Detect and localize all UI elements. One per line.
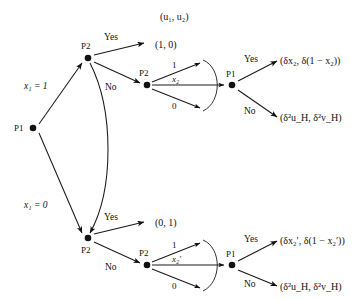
label-node-upper-p2-second: P2 bbox=[139, 68, 149, 78]
edge-root-to-lower-p2 bbox=[39, 133, 82, 233]
payoff-lower-p1-yes: (δx₂′, δ(1 − x₂′)) bbox=[280, 235, 345, 247]
edge-root-to-upper-p2 bbox=[39, 63, 82, 124]
header-payoff-key: (u₁, u₂) bbox=[160, 11, 189, 23]
game-tree-canvas: P1 P2 P2 P2 P2 P1 P1 (u₁, u₂) x₁ = 1 x₁ … bbox=[0, 0, 354, 300]
label-node-lower-p1: P1 bbox=[226, 249, 236, 259]
label-edge-lower-p1-yes: Yes bbox=[244, 234, 258, 244]
payoff-upper-p1-no: (δ²u_H, δ²v_H) bbox=[280, 112, 342, 124]
payoff-lower-p1-no: (δ²u_H, δ²v_H) bbox=[280, 281, 342, 293]
label-edge-x1-equals-1: x₁ = 1 bbox=[23, 81, 47, 91]
label-edge-lower-yes: Yes bbox=[104, 212, 118, 222]
label-lower-fan-top: 1 bbox=[172, 240, 177, 250]
label-lower-fan-mid: x₂′ bbox=[171, 254, 182, 264]
label-edge-x1-equals-0: x₁ = 0 bbox=[23, 200, 48, 210]
label-edge-lower-p1-no: No bbox=[244, 279, 256, 289]
label-node-lower-p2-second: P2 bbox=[139, 248, 149, 258]
node-lower-p2-second[interactable] bbox=[144, 262, 151, 269]
label-node-upper-p2: P2 bbox=[81, 41, 91, 51]
node-lower-p1[interactable] bbox=[229, 262, 236, 269]
node-upper-p2[interactable] bbox=[85, 55, 92, 62]
edge-upper-p2-no bbox=[94, 62, 140, 83]
game-tree-figure: P1 P2 P2 P2 P2 P1 P1 (u₁, u₂) x₁ = 1 x₁ … bbox=[0, 0, 354, 300]
label-edge-upper-p1-no: No bbox=[244, 106, 256, 116]
node-upper-p2-second[interactable] bbox=[144, 82, 151, 89]
edge-upper-p1-yes bbox=[238, 61, 277, 81]
payoff-upper-p1-yes: (δx₂, δ(1 − x₂)) bbox=[280, 55, 340, 67]
label-edge-upper-p1-yes: Yes bbox=[244, 54, 258, 64]
payoff-lower-yes: (0, 1) bbox=[155, 217, 177, 229]
node-root-p1[interactable] bbox=[30, 125, 37, 132]
label-upper-fan-bottom: 0 bbox=[172, 101, 177, 111]
label-node-upper-p1: P1 bbox=[226, 69, 236, 79]
label-upper-fan-top: 1 bbox=[172, 60, 177, 70]
label-node-lower-p2: P2 bbox=[81, 245, 91, 255]
payoff-upper-yes: (1, 0) bbox=[155, 39, 177, 51]
edge-lower-p1-yes bbox=[238, 241, 277, 261]
label-lower-fan-bottom: 0 bbox=[172, 281, 177, 291]
node-upper-p1[interactable] bbox=[229, 82, 236, 89]
edge-lower-p2-no bbox=[94, 242, 140, 263]
label-edge-lower-no: No bbox=[105, 262, 117, 272]
edge-upper-p2-yes bbox=[94, 43, 144, 55]
node-lower-p2[interactable] bbox=[85, 235, 92, 242]
label-node-root-p1: P1 bbox=[14, 123, 24, 133]
edge-lower-p2-yes bbox=[94, 222, 144, 234]
label-upper-fan-mid: x₂ bbox=[171, 74, 179, 84]
label-edge-upper-yes: Yes bbox=[104, 32, 118, 42]
label-edge-upper-no: No bbox=[105, 82, 117, 92]
